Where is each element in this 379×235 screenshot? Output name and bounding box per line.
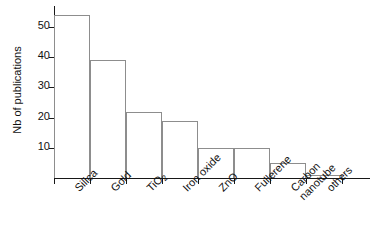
bar-iron-oxide[interactable] <box>162 121 198 178</box>
y-tick-label: 50 <box>38 19 50 31</box>
y-tick-label: 10 <box>38 140 50 152</box>
y-tick-label: 30 <box>38 79 50 91</box>
bar-tio2[interactable] <box>126 112 162 178</box>
y-tick-label: 20 <box>38 110 50 122</box>
y-axis-label: Nb of publications <box>4 0 30 180</box>
y-tick-label: 40 <box>38 49 50 61</box>
bar-chart-figure: Nb of publications 1020304050 SilicaGold… <box>0 0 379 235</box>
plot-area: 1020304050 SilicaGoldTiO2Iron oxideZnOFu… <box>54 6 370 179</box>
bar-gold[interactable] <box>90 60 126 178</box>
y-axis-label-text: Nb of publications <box>11 46 23 133</box>
bar-silica[interactable] <box>54 15 90 178</box>
x-tick-mark <box>54 179 55 184</box>
